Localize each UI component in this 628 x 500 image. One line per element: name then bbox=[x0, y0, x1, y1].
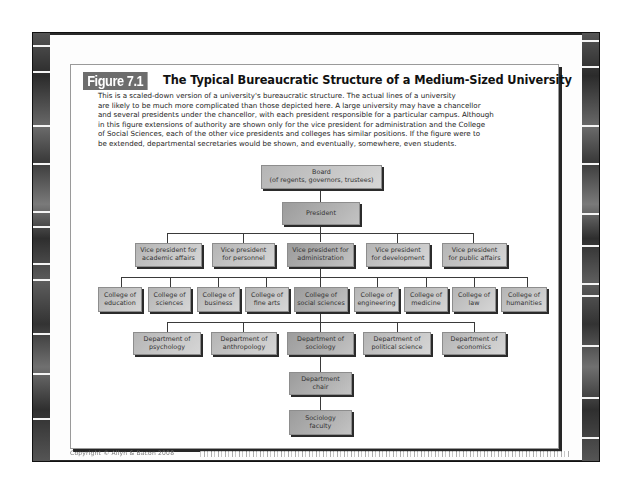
org-box-college-social-sciences: College ofsocial sciences bbox=[294, 287, 348, 312]
connector-line bbox=[527, 277, 528, 287]
connector-line bbox=[266, 277, 267, 287]
connector-line bbox=[320, 189, 321, 202]
box-text: anthropology bbox=[223, 343, 265, 351]
org-box-college-law: College oflaw bbox=[452, 287, 496, 312]
org-box-board: Board(of regents, governors, trustees) bbox=[261, 165, 382, 189]
box-text: chair bbox=[313, 383, 329, 391]
footer-decoration bbox=[200, 451, 570, 457]
org-box-vp-academic-affairs: Vice president foracademic affairs bbox=[135, 243, 202, 267]
copyright-text: Copyright © Allyn & Bacon 2008 bbox=[70, 449, 174, 456]
connector-line bbox=[243, 233, 244, 243]
connector-line bbox=[121, 277, 527, 278]
connector-line bbox=[320, 355, 321, 372]
connector-line bbox=[320, 395, 321, 410]
connector-line bbox=[170, 277, 171, 287]
connector-line bbox=[474, 277, 475, 287]
box-text: academic affairs bbox=[142, 254, 195, 262]
right-photo-strip bbox=[582, 33, 599, 461]
org-box-department-chair: Departmentchair bbox=[289, 372, 352, 395]
org-box-college-engineering: College ofengineering bbox=[354, 287, 399, 312]
box-text: for development bbox=[372, 254, 425, 262]
org-box-college-medicine: College ofmedicine bbox=[404, 287, 448, 312]
box-text: engineering bbox=[357, 299, 395, 307]
org-box-vp-public-affairs: Vice presidentfor public affairs bbox=[442, 243, 507, 267]
box-text: sociology bbox=[306, 343, 336, 351]
org-box-dept-psychology: Department ofpsychology bbox=[133, 332, 201, 355]
connector-line bbox=[397, 322, 398, 332]
figure-caption: This is a scaled-down version of a unive… bbox=[98, 91, 553, 149]
slide-frame: Figure 7.1 The Typical Bureaucratic Stru… bbox=[32, 32, 600, 462]
connector-line bbox=[218, 277, 219, 287]
box-text: sciences bbox=[156, 299, 183, 307]
box-text: psychology bbox=[149, 343, 185, 351]
connector-line bbox=[473, 233, 474, 243]
caption-line: in this figure extensions of authority a… bbox=[98, 120, 553, 130]
box-text: faculty bbox=[310, 422, 332, 430]
connector-line bbox=[377, 277, 378, 287]
box-text: medicine bbox=[411, 299, 440, 307]
connector-line bbox=[243, 322, 244, 332]
box-text: law bbox=[469, 299, 480, 307]
left-photo-strip bbox=[33, 33, 50, 461]
org-box-college-business: College ofbusiness bbox=[197, 287, 240, 312]
slide-page: Figure 7.1 The Typical Bureaucratic Stru… bbox=[50, 35, 582, 460]
connector-line bbox=[167, 322, 474, 323]
box-text: business bbox=[205, 299, 233, 307]
connector-line bbox=[167, 233, 168, 243]
org-box-dept-political-science: Department ofpolitical science bbox=[363, 332, 431, 355]
caption-line: and several presidents under the chancel… bbox=[98, 110, 553, 120]
connector-line bbox=[426, 277, 427, 287]
figure-label: Figure 7.1 bbox=[83, 72, 147, 90]
org-box-vp-administration: Vice president foradministration bbox=[287, 243, 354, 267]
caption-line: of Social Sciences, each of the other vi… bbox=[98, 129, 553, 139]
connector-line bbox=[474, 322, 475, 332]
caption-line: This is a scaled-down version of a unive… bbox=[98, 91, 553, 101]
box-text: for public affairs bbox=[448, 254, 500, 262]
org-box-dept-sociology: Department ofsociology bbox=[287, 332, 354, 355]
box-text: administration bbox=[297, 254, 343, 262]
figure-title: The Typical Bureaucratic Structure of a … bbox=[163, 73, 572, 87]
org-box-college-fine-arts: College offine arts bbox=[245, 287, 289, 312]
org-box-dept-anthropology: Department ofanthropology bbox=[211, 332, 277, 355]
org-box-college-sciences: College ofsciences bbox=[148, 287, 191, 312]
caption-line: are likely to be much more complicated t… bbox=[98, 101, 553, 111]
box-text: humanities bbox=[506, 299, 542, 307]
box-text: education bbox=[104, 299, 136, 307]
box-text: social sciences bbox=[297, 299, 345, 307]
connector-line bbox=[167, 322, 168, 332]
connector-line bbox=[121, 277, 122, 287]
org-box-college-education: College ofeducation bbox=[98, 287, 142, 312]
box-text: President bbox=[306, 210, 336, 218]
box-text: for personnel bbox=[222, 254, 264, 262]
org-box-college-humanities: College ofhumanities bbox=[501, 287, 547, 312]
box-text: (of regents, governors, trustees) bbox=[270, 176, 374, 184]
figure-card: Figure 7.1 The Typical Bureaucratic Stru… bbox=[70, 64, 559, 449]
org-box-sociology-faculty: Sociologyfaculty bbox=[289, 410, 352, 435]
org-box-dept-economics: Department ofeconomics bbox=[442, 332, 506, 355]
org-box-vp-development: Vice presidentfor development bbox=[366, 243, 430, 267]
caption-line: be extended, departmental secretaries wo… bbox=[98, 139, 553, 149]
org-box-vp-personnel: Vice presidentfor personnel bbox=[212, 243, 275, 267]
connector-line bbox=[167, 233, 473, 234]
connector-line bbox=[397, 233, 398, 243]
box-text: economics bbox=[457, 343, 491, 351]
box-text: political science bbox=[371, 343, 422, 351]
box-text: fine arts bbox=[254, 299, 280, 307]
org-box-president: President bbox=[282, 202, 360, 225]
